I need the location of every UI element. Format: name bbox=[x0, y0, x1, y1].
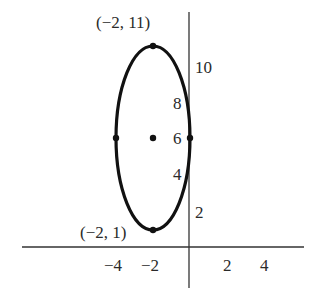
y-tick-label: 8 bbox=[173, 95, 182, 112]
top-vertex-label: (−2, 11) bbox=[96, 14, 150, 31]
y-tick-label: 2 bbox=[195, 204, 204, 221]
ellipse-plot bbox=[0, 0, 323, 302]
top-vertex-point bbox=[150, 43, 156, 49]
center-point bbox=[150, 135, 156, 141]
left-vertex-point bbox=[113, 135, 119, 141]
y-tick-label: 4 bbox=[173, 166, 182, 183]
y-tick-label: 10 bbox=[195, 59, 212, 76]
bottom-vertex-label: (−2, 1) bbox=[80, 224, 126, 241]
x-tick-label: 2 bbox=[223, 257, 232, 274]
right-vertex-point bbox=[187, 135, 193, 141]
x-tick-label: −2 bbox=[141, 257, 159, 274]
x-tick-label: −4 bbox=[104, 257, 122, 274]
bottom-vertex-point bbox=[150, 227, 156, 233]
x-tick-label: 4 bbox=[260, 257, 269, 274]
y-tick-label: 6 bbox=[173, 130, 182, 147]
